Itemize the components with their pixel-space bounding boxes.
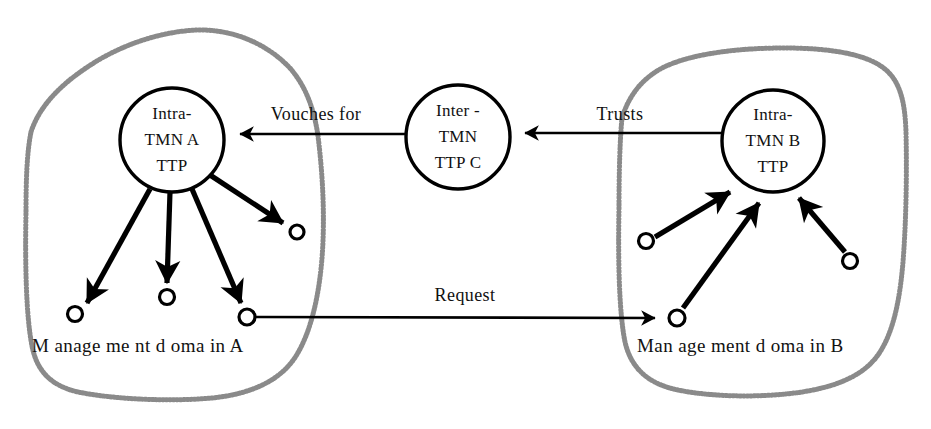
edge-label-trusts: Trusts — [597, 104, 644, 124]
node-intra-tmn-b-ttp-line-3: TTP — [757, 157, 788, 176]
node-intra-tmn-b-ttp-line-2: TMN B — [746, 131, 801, 150]
node-inter-tmn-ttp-c-line-2: TMN — [439, 127, 478, 146]
endpoint-b-left[interactable] — [639, 234, 654, 249]
endpoint-b-bottom[interactable] — [669, 310, 685, 326]
endpoint-a-right[interactable] — [239, 309, 255, 325]
endpoint-a-middle[interactable] — [160, 290, 175, 305]
endpoint-a-upper-right[interactable] — [290, 225, 304, 239]
node-intra-tmn-a-ttp-line-1: Intra- — [152, 104, 192, 123]
diagram-svg: Intra-TMN A TTP --> Inter-TMN TTP C --> … — [0, 0, 931, 429]
node-inter-tmn-ttp-c-line-3: TTP C — [435, 153, 482, 172]
edge-request — [256, 317, 655, 318]
node-inter-tmn-ttp-c-line-1: Inter - — [436, 101, 480, 120]
edge-endpoint-bottom-to-b — [683, 203, 759, 308]
edge-endpoint-left-to-b — [655, 192, 730, 237]
edge-a-to-endpoint-middle — [167, 192, 170, 283]
management-domain-a-label: M anage me nt d oma in A — [32, 335, 244, 356]
edge-a-to-endpoint-right — [192, 189, 241, 303]
node-intra-tmn-a-ttp-line-2: TMN A — [145, 130, 200, 149]
edge-label-vouches-for: Vouches for — [271, 104, 362, 124]
node-intra-tmn-b-ttp-line-1: Intra- — [753, 105, 793, 124]
edge-label-request: Request — [435, 285, 496, 305]
endpoint-b-right[interactable] — [843, 254, 858, 269]
management-domain-b-label: Man age ment d oma in B — [637, 335, 844, 356]
edge-a-to-endpoint-left — [87, 189, 150, 303]
endpoint-a-left[interactable] — [68, 307, 83, 322]
edge-endpoint-right-to-b — [799, 198, 845, 252]
node-intra-tmn-a-ttp-line-3: TTP — [156, 156, 187, 175]
diagram-canvas: Intra-TMN A TTP --> Inter-TMN TTP C --> … — [0, 0, 931, 429]
edge-a-to-endpoint-upper-right — [210, 175, 283, 223]
